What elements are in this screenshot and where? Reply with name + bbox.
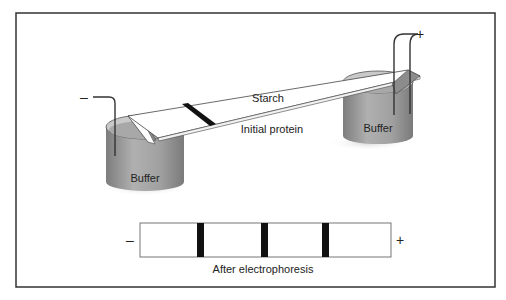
left-buffer-label: Buffer [130,172,159,184]
gel-band-2 [261,223,268,257]
gel-negative-sign: – [126,232,134,248]
gel-band-1 [197,223,204,257]
right-buffer-label: Buffer [363,122,392,134]
after-electrophoresis-caption: After electrophoresis [213,263,314,275]
gel-positive-sign: + [396,232,404,248]
gel-band-3 [322,223,329,257]
electrophoresis-diagram: Buffer Buffer Starch Initial protein – + [0,0,506,300]
initial-protein-label: Initial protein [241,123,303,135]
negative-sign: – [80,89,88,105]
starch-label: Starch [252,92,284,104]
positive-sign: + [416,26,424,42]
